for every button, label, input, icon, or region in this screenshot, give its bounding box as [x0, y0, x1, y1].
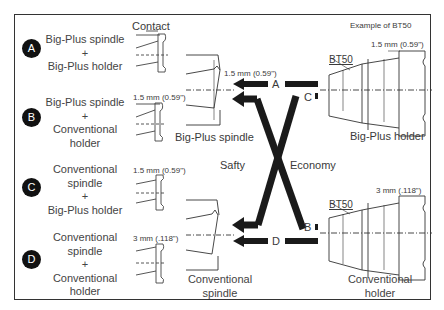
- contact-sketch-c: [136, 175, 166, 210]
- label-line: Conventional: [340, 273, 420, 287]
- contact-sketch-b: [136, 103, 166, 141]
- label-line: holder: [340, 287, 420, 301]
- arrow-label-d: D: [272, 235, 280, 247]
- arrow-label-c: C: [304, 91, 312, 103]
- arrowhead-b: [232, 91, 244, 107]
- label-line: spindle: [180, 287, 260, 301]
- bigplus-spindle-gap: 1.5 mm (0.59"): [224, 69, 277, 78]
- bigplus-holder-label: Big-Plus holder: [350, 130, 425, 142]
- bigplus-holder-taper: BT50: [329, 54, 353, 65]
- marker-c: [315, 93, 318, 99]
- conventional-holder-gap: 3 mm (.118"): [376, 186, 421, 195]
- conventional-holder-label: Conventional holder: [340, 273, 420, 300]
- bigplus-holder-gap: 1.5 mm (0.59"): [371, 40, 424, 49]
- bigplus-spindle-drawing: [186, 55, 236, 125]
- label-line: Conventional: [180, 273, 260, 287]
- contact-sketch-d: [136, 244, 166, 283]
- arrowhead-c-lower: [232, 217, 244, 233]
- economy-label: Economy: [290, 159, 336, 171]
- marker-b: [315, 224, 318, 230]
- safety-label: Safty: [220, 159, 245, 171]
- arrow-label-a: A: [272, 78, 279, 90]
- conventional-spindle-drawing: [186, 200, 234, 270]
- conventional-spindle-label: Conventional spindle: [180, 273, 260, 300]
- conventional-holder-taper: BT50: [329, 199, 353, 210]
- contact-sketch-a: [136, 31, 168, 72]
- arrow-label-b: B: [304, 221, 311, 233]
- bigplus-spindle-label: Big-Plus spindle: [175, 131, 254, 143]
